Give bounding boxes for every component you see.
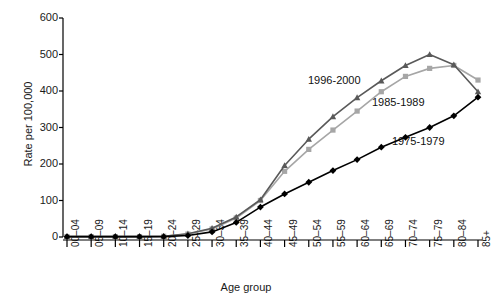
data-point-marker bbox=[354, 156, 361, 163]
data-point-marker bbox=[426, 51, 432, 57]
data-point-marker bbox=[330, 167, 337, 174]
data-point-marker bbox=[355, 108, 360, 113]
data-point-marker bbox=[281, 191, 288, 198]
data-point-marker bbox=[475, 77, 480, 82]
plot-area bbox=[0, 0, 492, 302]
series-1996-2000 bbox=[64, 51, 481, 239]
series-layer bbox=[64, 51, 482, 240]
data-point-marker bbox=[379, 89, 384, 94]
data-point-marker bbox=[378, 144, 385, 151]
series-1975-1979 bbox=[64, 94, 482, 240]
data-point-marker bbox=[427, 66, 432, 71]
data-point-marker bbox=[305, 179, 312, 186]
data-point-marker bbox=[426, 124, 433, 131]
data-point-marker bbox=[330, 127, 335, 132]
series-1985-1989 bbox=[64, 63, 480, 239]
data-point-marker bbox=[403, 74, 408, 79]
line-chart: Rate per 100,000 Age group 6005004003002… bbox=[0, 0, 492, 302]
data-point-marker bbox=[402, 134, 409, 141]
data-point-marker bbox=[282, 169, 287, 174]
data-point-marker bbox=[306, 147, 311, 152]
